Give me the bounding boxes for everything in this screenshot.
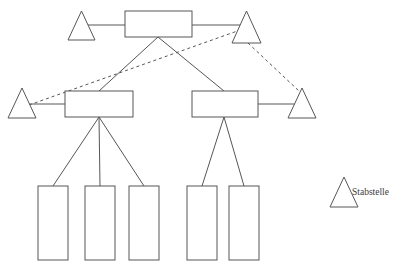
org-chart-diagram: Stabstelle [0,0,402,265]
middle-right-box-node[interactable] [192,91,258,117]
diagram-canvas: Stabstelle [0,0,402,265]
connector-top-box-to-middle-right-box [158,37,224,91]
connector-middle-right-box-to-bottom-box-4 [202,117,224,186]
connector-dashed-topright-triangle-to-right-staff [248,43,299,91]
connector-top-box-to-middle-left-box [99,37,158,91]
bottom-box-5-node[interactable] [229,186,259,260]
connector-middle-left-box-to-bottom-box-2 [99,117,100,186]
middle-left-box-node[interactable] [65,91,133,117]
bottom-box-3-node[interactable] [129,186,159,260]
middle-level-group [8,88,316,118]
connector-middle-left-box-to-bottom-box-3 [99,117,144,186]
bottom-box-4-node[interactable] [187,186,217,260]
bottom-level-group [38,186,259,260]
connector-middle-right-box-to-bottom-box-5 [224,117,244,186]
top-right-triangle-node[interactable] [232,11,261,43]
middle-left-triangle-node[interactable] [8,88,36,118]
top-box-node[interactable] [125,11,192,37]
top-level-group [68,11,261,43]
connector-middle-left-box-to-bottom-box-1 [53,117,99,186]
bottom-box-1-node[interactable] [38,186,68,260]
middle-right-triangle-node[interactable] [288,88,316,118]
legend-label: Stabstelle [352,187,389,197]
legend-group: Stabstelle [330,177,389,207]
bottom-box-2-node[interactable] [85,186,115,260]
